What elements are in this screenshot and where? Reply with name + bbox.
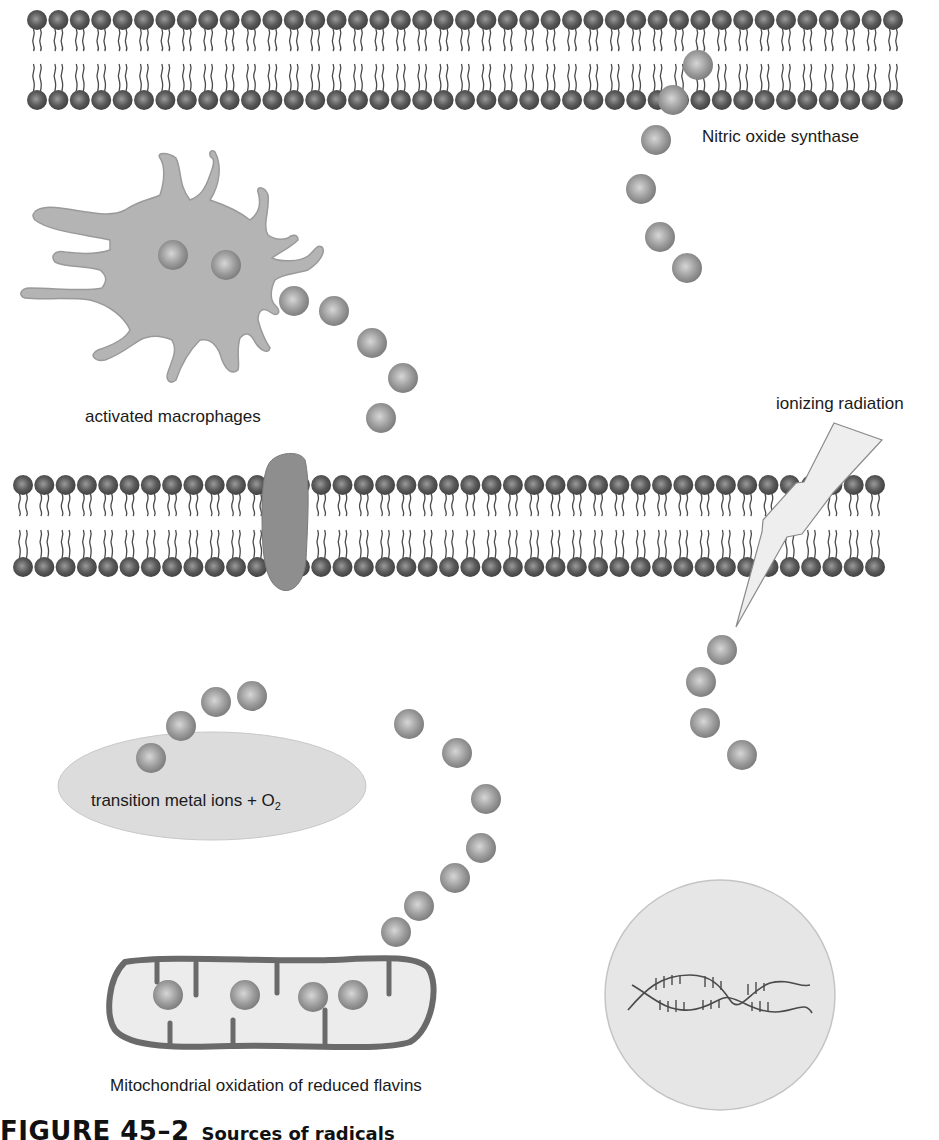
lipid-head bbox=[716, 475, 736, 495]
lipid-head bbox=[588, 475, 608, 495]
lipid-head bbox=[311, 557, 331, 577]
lipid-head bbox=[34, 557, 54, 577]
radical-sphere bbox=[707, 635, 737, 665]
lipid-head bbox=[524, 557, 544, 577]
lipid-head bbox=[883, 10, 903, 30]
plasma-membrane-top bbox=[27, 10, 903, 110]
lipid-head bbox=[840, 10, 860, 30]
lipid-head bbox=[737, 475, 757, 495]
lipid-head bbox=[241, 10, 261, 30]
lipid-head bbox=[434, 10, 454, 30]
lipid-head bbox=[354, 557, 374, 577]
lipid-head bbox=[141, 475, 161, 495]
lipid-head bbox=[284, 90, 304, 110]
label-transition-metal-ions: transition metal ions + O2 bbox=[91, 792, 281, 812]
lipid-head bbox=[391, 90, 411, 110]
lipid-head bbox=[77, 475, 97, 495]
radical-sphere bbox=[686, 667, 716, 697]
lipid-head bbox=[412, 90, 432, 110]
lipid-head bbox=[333, 557, 353, 577]
lipid-head bbox=[460, 557, 480, 577]
lipid-head bbox=[844, 557, 864, 577]
lipid-head bbox=[327, 90, 347, 110]
lipid-head bbox=[865, 557, 885, 577]
lipid-head bbox=[98, 475, 118, 495]
lipid-head bbox=[226, 557, 246, 577]
radical-sphere bbox=[357, 328, 387, 358]
lipid-head bbox=[652, 475, 672, 495]
lipid-head bbox=[524, 475, 544, 495]
lipid-head bbox=[141, 557, 161, 577]
lipid-head bbox=[776, 90, 796, 110]
lipid-head bbox=[755, 90, 775, 110]
lipid-head bbox=[77, 557, 97, 577]
lipid-head bbox=[695, 475, 715, 495]
lipid-head bbox=[439, 475, 459, 495]
radical-sphere bbox=[381, 917, 411, 947]
lipid-head bbox=[120, 557, 140, 577]
lipid-head bbox=[498, 90, 518, 110]
lipid-head bbox=[369, 10, 389, 30]
lipid-head bbox=[369, 90, 389, 110]
lipid-head bbox=[476, 90, 496, 110]
radical-sphere bbox=[158, 240, 188, 270]
lipid-head bbox=[797, 10, 817, 30]
caption-title: Sources of radicals bbox=[202, 1123, 395, 1140]
lipid-head bbox=[305, 90, 325, 110]
lipid-head bbox=[562, 10, 582, 30]
lipid-head bbox=[27, 10, 47, 30]
lipid-head bbox=[434, 90, 454, 110]
radical-sphere bbox=[394, 709, 424, 739]
lipid-head bbox=[375, 557, 395, 577]
lipid-head bbox=[48, 10, 68, 30]
lipid-head bbox=[541, 10, 561, 30]
lipid-head bbox=[482, 557, 502, 577]
lipid-head bbox=[183, 475, 203, 495]
lipid-head bbox=[862, 10, 882, 30]
lipid-head bbox=[13, 557, 33, 577]
lipid-head bbox=[162, 557, 182, 577]
radical-sources-figure: Nitric oxide synthase activated macropha… bbox=[0, 0, 939, 1140]
lipid-head bbox=[333, 475, 353, 495]
lipid-head bbox=[354, 475, 374, 495]
lipid-head bbox=[755, 10, 775, 30]
radical-sphere bbox=[237, 681, 267, 711]
lipid-head bbox=[609, 557, 629, 577]
lipid-head bbox=[13, 475, 33, 495]
lipid-head bbox=[91, 90, 111, 110]
lipid-head bbox=[134, 90, 154, 110]
lipid-head bbox=[712, 10, 732, 30]
lipid-head bbox=[883, 90, 903, 110]
figure-caption: FIGURE 45–2Sources of radicals bbox=[0, 1118, 395, 1140]
lipid-head bbox=[155, 90, 175, 110]
lipid-head bbox=[695, 557, 715, 577]
lipid-head bbox=[626, 90, 646, 110]
lipid-head bbox=[177, 10, 197, 30]
lipid-head bbox=[183, 557, 203, 577]
lipid-head bbox=[840, 90, 860, 110]
lipid-head bbox=[865, 475, 885, 495]
lipid-head bbox=[583, 90, 603, 110]
radical-sphere bbox=[136, 743, 166, 773]
lipid-head bbox=[177, 90, 197, 110]
lipid-head bbox=[284, 10, 304, 30]
radical-sphere bbox=[298, 982, 328, 1012]
lipid-head bbox=[588, 557, 608, 577]
lipid-head bbox=[27, 90, 47, 110]
radical-sphere bbox=[338, 980, 368, 1010]
lipid-head bbox=[396, 557, 416, 577]
nos-protein-sphere bbox=[683, 50, 713, 80]
lipid-head bbox=[822, 557, 842, 577]
lipid-head bbox=[716, 557, 736, 577]
radical-sphere bbox=[211, 250, 241, 280]
radical-sphere bbox=[279, 286, 309, 316]
lipid-head bbox=[396, 475, 416, 495]
lipid-head bbox=[70, 10, 90, 30]
lipid-head bbox=[418, 557, 438, 577]
radical-sphere bbox=[672, 253, 702, 283]
lipid-head bbox=[546, 475, 566, 495]
nos-protein-sphere bbox=[658, 85, 688, 115]
radical-sphere bbox=[230, 980, 260, 1010]
label-mitochondrial-oxidation: Mitochondrial oxidation of reduced flavi… bbox=[110, 1077, 422, 1094]
lipid-head bbox=[311, 475, 331, 495]
